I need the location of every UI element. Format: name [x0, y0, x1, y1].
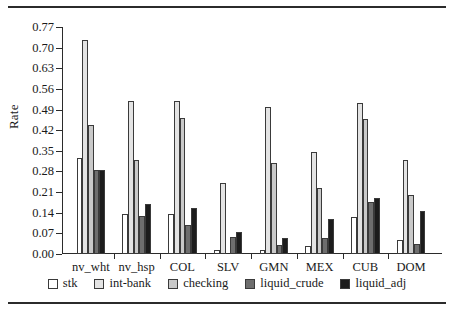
y-tick-label: 0.49: [32, 103, 54, 116]
bar-group: COL: [168, 27, 196, 254]
y-axis-label: Rate: [6, 104, 22, 129]
legend-item-int-bank[interactable]: int-bank: [94, 276, 151, 291]
y-tick-label: 0.56: [32, 83, 54, 96]
bar-set: [397, 27, 425, 254]
legend-label: int-bank: [109, 276, 151, 291]
legend-item-liquid-adj[interactable]: liquid_adj: [340, 276, 406, 291]
bar-set: [77, 27, 105, 254]
bar-groups: nv_whtnv_hspCOLSLVGMNMEXCUBDOM: [62, 27, 442, 254]
x-tick-label: nv_wht: [72, 260, 110, 275]
y-tick-label: 0.14: [32, 206, 54, 219]
bar-liquid-adj: [374, 198, 380, 254]
legend-swatch-icon: [168, 279, 178, 289]
legend-item-checking[interactable]: checking: [168, 276, 228, 291]
bar-liquid-adj: [282, 238, 288, 254]
bar-group: CUB: [351, 27, 379, 254]
bar-set: [214, 27, 242, 254]
bar-int-bank: [220, 183, 226, 254]
bar-set: [305, 27, 333, 254]
legend-label: stk: [63, 276, 78, 291]
x-tick-label: SLV: [217, 260, 239, 275]
bar-group: GMN: [260, 27, 288, 254]
y-tick-label: 0.63: [32, 62, 54, 75]
x-tick: [205, 254, 206, 259]
bar-liquid-adj: [420, 211, 426, 254]
x-tick-label: nv_hsp: [119, 260, 155, 275]
y-tick-label: 0.21: [32, 186, 54, 199]
x-tick-label: CUB: [353, 260, 379, 275]
legend-swatch-icon: [245, 279, 255, 289]
bar-liquid-adj: [236, 232, 242, 254]
bar-liquid-adj: [145, 204, 151, 254]
legend-swatch-icon: [94, 279, 104, 289]
x-tick-label: GMN: [259, 260, 288, 275]
bar-checking: [271, 163, 277, 254]
x-tick: [114, 254, 115, 259]
y-tick-label: 0.35: [32, 145, 54, 158]
x-tick: [343, 254, 344, 259]
y-tick-label: 0.28: [32, 165, 54, 178]
legend-swatch-icon: [48, 279, 58, 289]
x-tick: [251, 254, 252, 259]
x-tick: [297, 254, 298, 259]
bar-set: [351, 27, 379, 254]
bar-liquid-adj: [191, 208, 197, 254]
legend-item-liquid-crude[interactable]: liquid_crude: [245, 276, 323, 291]
y-tick-label: 0.00: [32, 248, 54, 261]
chart-figure: Rate 0.000.070.140.210.280.350.420.490.5…: [0, 0, 454, 312]
bar-group: SLV: [214, 27, 242, 254]
bar-group: nv_hsp: [122, 27, 150, 254]
legend-label: checking: [183, 276, 228, 291]
x-tick-label: COL: [170, 260, 195, 275]
x-tick-label: DOM: [397, 260, 426, 275]
plot-area: 0.000.070.140.210.280.350.420.490.560.63…: [62, 27, 442, 254]
y-tick-label: 0.70: [32, 41, 54, 54]
bar-group: MEX: [305, 27, 333, 254]
chart-legend: stkint-bankcheckingliquid_crudeliquid_ad…: [0, 276, 454, 291]
x-tick: [388, 254, 389, 259]
y-tick: [56, 254, 62, 255]
bar-set: [122, 27, 150, 254]
y-tick-label: 0.42: [32, 124, 54, 137]
y-tick-label: 0.07: [32, 227, 54, 240]
legend-label: liquid_crude: [260, 276, 323, 291]
bar-group: nv_wht: [77, 27, 105, 254]
x-tick: [160, 254, 161, 259]
x-tick-label: MEX: [306, 260, 334, 275]
bar-liquid-adj: [328, 219, 334, 254]
legend-item-stk[interactable]: stk: [48, 276, 78, 291]
legend-label: liquid_adj: [355, 276, 406, 291]
legend-swatch-icon: [340, 279, 350, 289]
bar-liquid-adj: [99, 170, 105, 254]
bar-group: DOM: [397, 27, 425, 254]
bar-set: [260, 27, 288, 254]
y-tick-label: 0.77: [32, 21, 54, 34]
bottom-rule: [8, 302, 446, 304]
bar-set: [168, 27, 196, 254]
top-rule: [8, 6, 446, 8]
